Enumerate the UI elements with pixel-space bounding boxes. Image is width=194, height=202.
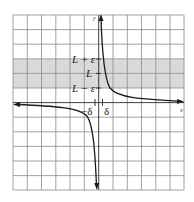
limit-diagram: y x L + ε L L − ε −δ δ <box>0 0 194 202</box>
axes <box>13 15 184 190</box>
label-L: L <box>85 67 92 79</box>
label-L-plus-epsilon: L + ε <box>71 53 96 65</box>
y-axis-label: y <box>92 15 96 21</box>
graph-canvas: y x L + ε L L − ε −δ δ <box>0 0 194 202</box>
label-L-minus-epsilon: L − ε <box>71 82 96 94</box>
arrow-right-icon <box>177 99 184 104</box>
label-minus-delta: −δ <box>81 105 92 117</box>
x-axis-label: x <box>179 107 183 113</box>
label-delta: δ <box>104 105 109 117</box>
